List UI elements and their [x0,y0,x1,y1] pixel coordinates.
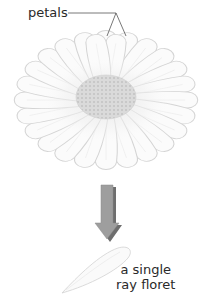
single-ray-floret-label: a single ray floret [116,262,175,292]
floret-label-line1: a single [116,262,175,277]
petals-leader-lines [68,13,126,36]
floret-label-line2: ray floret [116,277,175,292]
down-arrow-icon [95,185,122,242]
disc-florets [76,75,136,119]
daisy-diagram [0,0,212,298]
petals-label: petals [28,6,68,20]
